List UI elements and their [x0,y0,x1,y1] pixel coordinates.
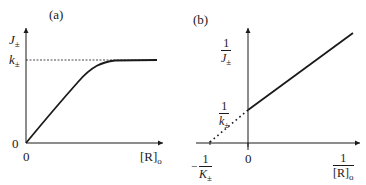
x-intercept-label: 1 K± [199,153,212,183]
panel-a: (a) J± k± 0 0 [R]o [0,0,183,185]
reciprocal-line [248,33,353,110]
x-axis-label: [R]o [140,150,162,166]
x-axis-label: 1 [R]o [333,152,354,182]
x-origin-label: 0 [23,150,30,163]
y-axis-label: 1 J± [221,37,231,67]
y-tick-k: k± [9,53,20,69]
panel-label: (a) [49,8,63,21]
panel-label: (b) [193,13,208,26]
y-origin-label: 0 [12,137,19,150]
panel-b: (b) 1 J± 1 k± − 1 K± 0 1 [R]o [183,0,366,185]
saturation-curve [26,60,157,143]
x-origin-label: 0 [245,152,252,165]
x-intercept-sign: − [191,161,197,172]
y-intercept-label: 1 k± [219,100,229,130]
y-axis-label: J± [9,33,20,49]
